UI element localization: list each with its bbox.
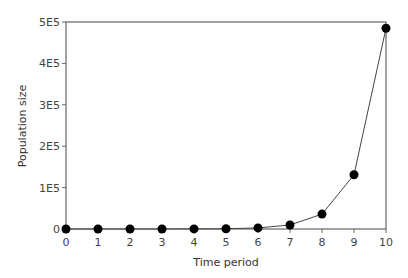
x-tick-label: 3 <box>159 236 166 249</box>
x-tick-label: 9 <box>351 236 358 249</box>
x-tick-label: 1 <box>95 236 102 249</box>
data-series <box>62 24 391 234</box>
plot-border <box>66 22 386 229</box>
data-point-marker <box>382 24 391 33</box>
x-tick-label: 6 <box>255 236 262 249</box>
data-point-marker <box>350 170 359 179</box>
y-axis-title: Population size <box>16 84 29 167</box>
plot-frame <box>66 22 386 229</box>
data-point-marker <box>62 224 71 233</box>
data-point-marker <box>190 224 199 233</box>
series-line <box>66 28 386 229</box>
y-tick-label: 4E5 <box>39 57 60 70</box>
y-tick-label: 5E5 <box>39 16 60 29</box>
x-tick-label: 8 <box>319 236 326 249</box>
data-point-marker <box>158 224 167 233</box>
line-chart: 01E52E53E54E55E5 012345678910 Time perio… <box>0 0 408 278</box>
y-tick-label: 0 <box>53 223 60 236</box>
data-point-marker <box>286 220 295 229</box>
x-tick-label: 2 <box>127 236 134 249</box>
data-point-marker <box>254 223 263 232</box>
y-axis: 01E52E53E54E55E5 <box>39 16 66 236</box>
y-tick-label: 3E5 <box>39 99 60 112</box>
x-tick-label: 0 <box>63 236 70 249</box>
x-axis-title: Time period <box>192 256 258 269</box>
data-point-marker <box>126 224 135 233</box>
data-point-marker <box>318 210 327 219</box>
y-tick-label: 1E5 <box>39 182 60 195</box>
x-tick-label: 4 <box>191 236 198 249</box>
x-tick-label: 7 <box>287 236 294 249</box>
x-tick-label: 5 <box>223 236 230 249</box>
data-point-marker <box>222 224 231 233</box>
data-point-marker <box>94 224 103 233</box>
y-tick-label: 2E5 <box>39 140 60 153</box>
x-tick-label: 10 <box>379 236 393 249</box>
